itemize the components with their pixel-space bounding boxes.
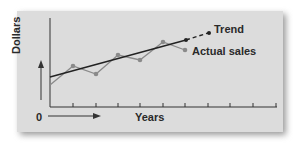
- x-axis-label: Years: [135, 111, 164, 123]
- legend-trend: Trend: [214, 23, 244, 35]
- origin-label: 0: [36, 111, 42, 123]
- y-arrow-head-icon: [38, 60, 44, 68]
- y-axis-label: Dollars: [10, 17, 22, 54]
- trend-end-point: [207, 31, 211, 35]
- trend-projection: [186, 33, 208, 40]
- x-ticks: [73, 103, 276, 107]
- trend-point: [184, 38, 188, 42]
- x-arrow-head-icon: [93, 113, 101, 119]
- actual-sales-line: [50, 42, 185, 85]
- legend-actual-sales: Actual sales: [192, 45, 256, 57]
- trend-line: [50, 40, 186, 77]
